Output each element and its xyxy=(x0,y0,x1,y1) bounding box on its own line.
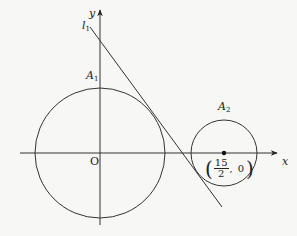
paren-close: ) xyxy=(246,159,254,179)
point-y: 0 xyxy=(238,163,244,174)
y-axis-label: y xyxy=(89,8,95,19)
line-label: l1 xyxy=(82,20,90,33)
circle2-label: A2 xyxy=(218,101,230,114)
fraction: 15 2 xyxy=(214,158,229,179)
x-axis-label: x xyxy=(282,156,288,167)
paren-open: ( xyxy=(205,159,213,179)
diagram-svg xyxy=(0,0,297,236)
point-coordinate-label: ( 15 2 , 0 ) xyxy=(205,158,254,179)
fraction-den: 2 xyxy=(218,169,224,179)
tangent-line-l1 xyxy=(90,27,222,207)
diagram-canvas: y x O l1 A1 A2 ( 15 2 , 0 ) xyxy=(0,0,297,236)
origin-label: O xyxy=(90,156,99,167)
center-point-a2 xyxy=(222,151,226,155)
comma: , xyxy=(230,163,233,174)
circle1-label: A1 xyxy=(86,70,98,83)
